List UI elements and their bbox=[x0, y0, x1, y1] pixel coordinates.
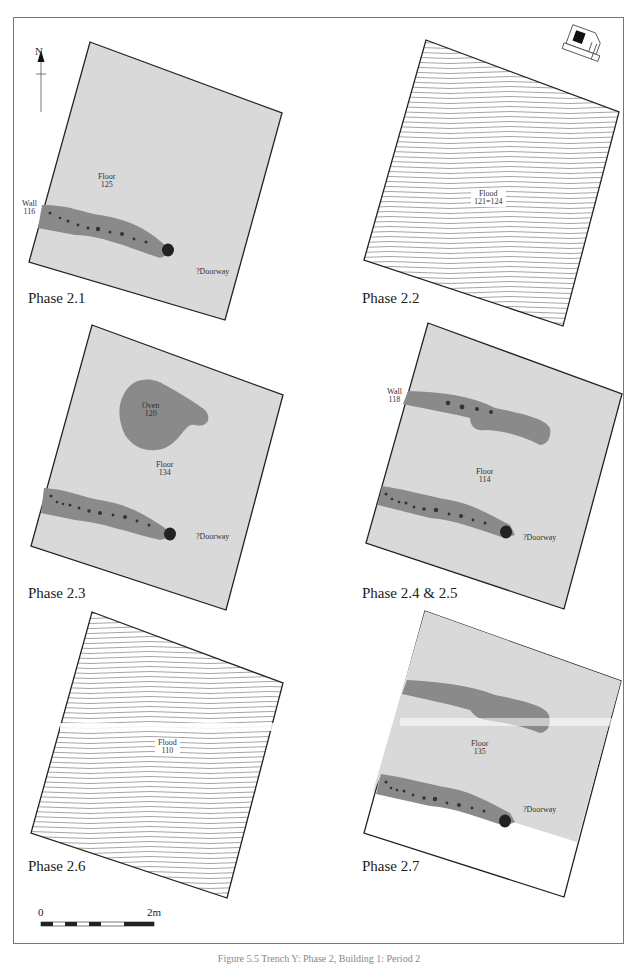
oven-120-label: Oven 120 bbox=[142, 402, 159, 418]
north-arrow-icon bbox=[36, 50, 46, 112]
floor-135-label: Floor 135 bbox=[471, 740, 488, 756]
plan-drawings bbox=[0, 0, 638, 965]
figure-caption: Figure 5.5 Trench Y: Phase 2, Building 1… bbox=[0, 953, 638, 964]
panel-phase-2-7 bbox=[364, 611, 621, 897]
doorway-label: ?Doorway bbox=[196, 533, 229, 541]
north-label: N bbox=[35, 47, 43, 55]
doorway-label: ?Doorway bbox=[196, 268, 229, 276]
wall-116-label: Wall 116 bbox=[22, 200, 37, 216]
phase-2-7-title: Phase 2.7 bbox=[362, 858, 420, 875]
phase-2-4-2-5-title: Phase 2.4 & 2.5 bbox=[362, 585, 457, 602]
flood-110-label: Flood 110 bbox=[155, 738, 180, 756]
scale-start-label: 0 bbox=[38, 906, 44, 918]
doorway-label: ?Doorway bbox=[523, 806, 556, 814]
site-location-inset-icon bbox=[562, 24, 607, 61]
floor-114-label: Floor 114 bbox=[476, 468, 493, 484]
floor-125-label: Floor 125 bbox=[98, 173, 115, 189]
doorway-label: ?Doorway bbox=[523, 534, 556, 542]
phase-2-2-title: Phase 2.2 bbox=[362, 290, 420, 307]
panel-phase-2-2 bbox=[364, 40, 619, 326]
phase-2-6-title: Phase 2.6 bbox=[28, 858, 86, 875]
scale-end-label: 2m bbox=[147, 906, 161, 918]
scale-bar bbox=[41, 922, 154, 926]
panel-phase-2-4-2-5 bbox=[366, 323, 622, 609]
wall-118-label: Wall 118 bbox=[387, 388, 402, 404]
flood-121-124-label: Flood 121=124 bbox=[471, 189, 506, 207]
panel-phase-2-1 bbox=[29, 42, 282, 320]
phase-2-3-title: Phase 2.3 bbox=[28, 585, 86, 602]
floor-134-label: Floor 134 bbox=[156, 461, 173, 477]
phase-2-1-title: Phase 2.1 bbox=[28, 290, 86, 307]
